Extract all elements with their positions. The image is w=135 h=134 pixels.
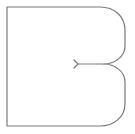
b-shape-outline bbox=[7, 7, 125, 126]
b-shape-notch bbox=[74, 60, 104, 68]
b-shape-figure bbox=[0, 0, 135, 134]
drawing-canvas bbox=[0, 0, 135, 134]
